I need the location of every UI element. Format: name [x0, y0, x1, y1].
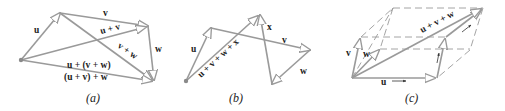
label-u: u: [34, 25, 40, 35]
vector-u: [21, 13, 60, 60]
vector-sum: [352, 9, 481, 78]
figure-b: u v w x u + v + w + x (b): [184, 15, 310, 105]
vector-addition-figure: u v w u + v v + w u + (v + w) (u + v) + …: [0, 0, 505, 111]
label-v: v: [282, 35, 287, 45]
caption-b: (b): [229, 91, 243, 105]
label-sum: u + v + w + x: [196, 36, 241, 79]
vector-v: [352, 39, 360, 78]
label-v: v: [346, 48, 351, 58]
label-v-plus-w: v + w: [116, 40, 140, 61]
label-w: w: [300, 66, 307, 76]
figure-c: u v w u + v + w (c): [346, 8, 483, 105]
label-w: w: [363, 49, 370, 59]
label-u-plus-vw: u + (v + w): [67, 60, 111, 71]
label-u: u: [381, 77, 387, 87]
label-w: w: [155, 44, 162, 54]
caption-c: (c): [405, 91, 418, 105]
label-x: x: [267, 22, 272, 32]
label-u: u: [191, 44, 197, 54]
vector-w: [148, 26, 154, 80]
direction-arrow-v: [437, 53, 439, 63]
origin-point: [184, 79, 188, 83]
label-v: v: [103, 8, 108, 18]
origin-point: [19, 58, 23, 62]
label-sum: u + v + w: [418, 8, 456, 34]
figure-a: u v w u + v v + w u + (v + w) (u + v) + …: [19, 8, 162, 105]
label-uv-plus-w: (u + v) + w: [64, 72, 108, 83]
caption-a: (a): [86, 91, 100, 105]
direction-arrow-w: [462, 25, 471, 32]
